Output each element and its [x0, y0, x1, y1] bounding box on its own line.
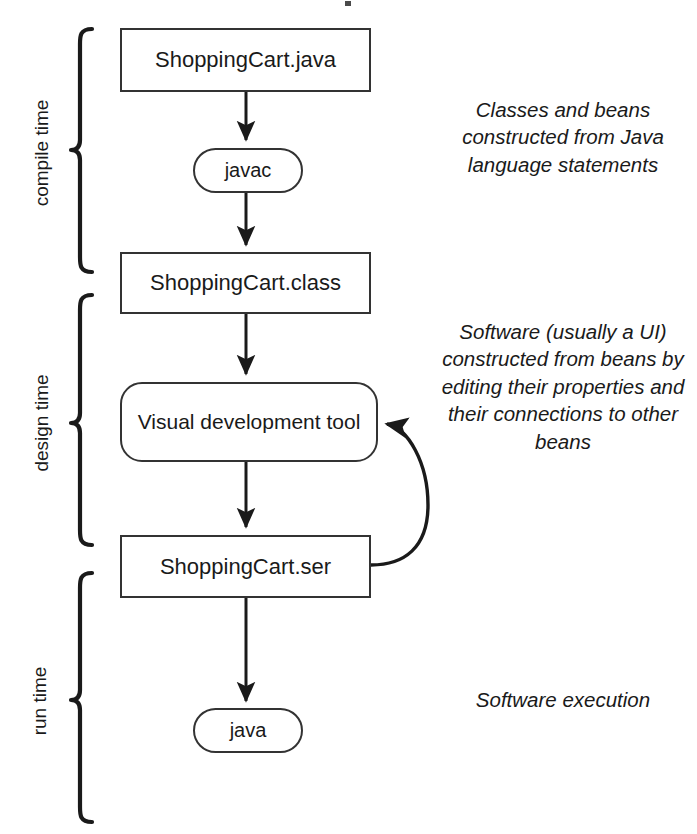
brace-design-time: [71, 295, 92, 545]
node-label: ShoppingCart.java: [155, 47, 336, 73]
brace-run-time: [71, 573, 92, 822]
node-shoppingcart-java: ShoppingCart.java: [120, 28, 371, 92]
node-label: javac: [225, 159, 272, 183]
diagram-canvas: ShoppingCart.java javac ShoppingCart.cla…: [0, 0, 697, 834]
phase-label-design-time: design time: [31, 363, 53, 483]
node-java: java: [193, 708, 303, 753]
brace-compile-time: [71, 29, 92, 272]
edge-ser-to-tool-feedback: [371, 424, 428, 565]
node-label: Visual development tool: [138, 410, 361, 435]
annotation-compile-time: Classes and beans constructed from Java …: [438, 96, 688, 178]
node-javac: javac: [193, 148, 303, 193]
node-visual-development-tool: Visual development tool: [120, 382, 378, 462]
phase-label-compile-time: compile time: [31, 93, 53, 213]
node-label: ShoppingCart.class: [150, 270, 341, 296]
annotation-run-time: Software execution: [438, 686, 688, 713]
node-shoppingcart-ser: ShoppingCart.ser: [120, 535, 371, 598]
node-shoppingcart-class: ShoppingCart.class: [120, 252, 371, 314]
node-label: ShoppingCart.ser: [160, 554, 331, 580]
phase-label-run-time: run time: [29, 641, 51, 761]
node-label: java: [230, 719, 267, 743]
annotation-design-time: Software (usually a UI) constructed from…: [438, 318, 688, 455]
